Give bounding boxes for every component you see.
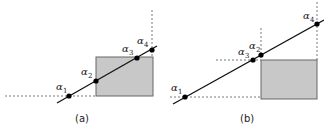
diagram-canvas: α1α2α3α4(a)α1α2α3α4(b) bbox=[0, 0, 324, 128]
panel-a: α1α2α3α4(a) bbox=[5, 10, 157, 124]
point-label-subscript: 3 bbox=[129, 49, 133, 57]
panel-caption-b: (b) bbox=[240, 113, 254, 124]
point-label-alpha-4: α bbox=[137, 35, 144, 46]
intersection-point-alpha-4 bbox=[149, 47, 154, 52]
point-label-alpha-3: α bbox=[238, 46, 245, 57]
point-label-alpha-2: α bbox=[249, 40, 256, 51]
point-label-subscript: 3 bbox=[245, 52, 249, 60]
point-label-alpha-3: α bbox=[122, 43, 129, 54]
intersection-point-alpha-3 bbox=[250, 57, 255, 62]
panel-b: α1α2α3α4(b) bbox=[170, 2, 324, 124]
point-label-alpha-4: α bbox=[303, 10, 310, 21]
point-label-alpha-1: α bbox=[56, 81, 63, 92]
point-label-subscript: 4 bbox=[310, 16, 315, 24]
point-label-alpha-1: α bbox=[171, 82, 178, 93]
point-label-subscript: 1 bbox=[63, 87, 67, 95]
point-label-subscript: 1 bbox=[178, 88, 182, 96]
intersection-point-alpha-4 bbox=[314, 21, 319, 26]
point-label-subscript: 2 bbox=[88, 72, 92, 80]
panel-caption-a: (a) bbox=[75, 113, 89, 124]
intersection-point-alpha-1 bbox=[182, 94, 187, 99]
intersection-point-alpha-3 bbox=[134, 55, 139, 60]
intersection-point-alpha-2 bbox=[93, 78, 98, 83]
point-label-subscript: 2 bbox=[256, 46, 260, 54]
point-label-subscript: 4 bbox=[144, 41, 149, 49]
point-label-alpha-2: α bbox=[81, 66, 88, 77]
shaded-rectangle bbox=[261, 60, 317, 99]
